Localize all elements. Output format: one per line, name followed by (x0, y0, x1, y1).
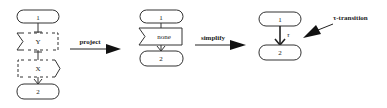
project-arrow: project (70, 38, 121, 54)
tau-label: τ (287, 31, 290, 39)
simplify-arrow: simplify (195, 34, 246, 50)
process-diagram: 1 Y X 2 project (0, 0, 387, 108)
simplified-diagram: 1 τ 2 (259, 12, 301, 60)
start-node-label: 1 (36, 14, 40, 22)
tau-transition-label: τ-transition (333, 14, 368, 22)
end-node-label: 2 (36, 88, 40, 96)
arrowhead-icon (230, 40, 246, 50)
end-node-label: 2 (278, 49, 282, 57)
tau-transition-annotation: τ-transition (303, 14, 368, 38)
activity-y-label: Y (35, 38, 40, 46)
projected-diagram: 1 none 2 (139, 10, 183, 66)
arrowhead-icon (106, 44, 121, 54)
annotation-arrowhead-icon (303, 25, 321, 38)
original-diagram: 1 Y X 2 (17, 10, 60, 99)
activity-x-label: X (35, 65, 40, 73)
start-node-label: 1 (278, 16, 282, 24)
start-node-label: 1 (159, 14, 163, 22)
activity-none-label: none (157, 33, 171, 41)
project-label: project (79, 38, 101, 46)
end-node-label: 2 (159, 55, 163, 63)
simplify-label: simplify (201, 34, 226, 42)
